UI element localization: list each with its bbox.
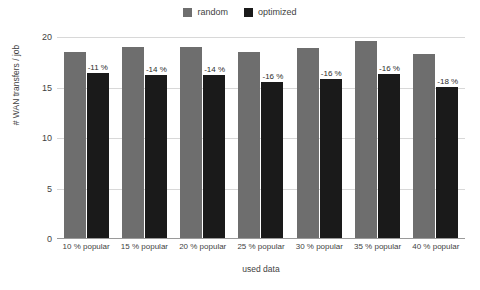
- bar-delta-label: -16 %: [321, 70, 342, 79]
- x-tick-label: 20 % popular: [174, 243, 232, 251]
- bar-chart: randomoptimized 05101520 # WAN transfers…: [0, 0, 480, 290]
- bar-optimized[interactable]: -11 %: [87, 73, 109, 239]
- legend-entry-optimized[interactable]: optimized: [244, 8, 297, 17]
- x-axis-tick-labels: 10 % popular15 % popular20 % popular25 %…: [57, 243, 465, 251]
- bar-group: -18 %: [407, 37, 465, 239]
- legend-label: random: [197, 8, 228, 17]
- bar-group: -16 %: [290, 37, 348, 239]
- legend-label: optimized: [258, 8, 297, 17]
- y-tick-label: 5: [4, 184, 52, 193]
- bar-group: -14 %: [115, 37, 173, 239]
- bar-random[interactable]: [238, 52, 260, 239]
- bar-group: -11 %: [57, 37, 115, 239]
- y-tick-label: 0: [4, 235, 52, 244]
- bar-delta-label: -18 %: [437, 78, 458, 87]
- bar-optimized[interactable]: -16 %: [320, 79, 342, 239]
- bar-random[interactable]: [122, 47, 144, 239]
- bar-delta-label: -16 %: [262, 73, 283, 82]
- bar-group: -16 %: [348, 37, 406, 239]
- x-tick-label: 30 % popular: [290, 243, 348, 251]
- bar-optimized[interactable]: -18 %: [436, 87, 458, 240]
- bar-optimized[interactable]: -16 %: [378, 74, 400, 239]
- bar-group: -14 %: [174, 37, 232, 239]
- bar-groups: -11 %-14 %-14 %-16 %-16 %-16 %-18 %: [57, 37, 465, 239]
- bar-random[interactable]: [413, 54, 435, 239]
- y-axis-title: # WAN transfers / job: [11, 15, 21, 155]
- x-tick-label: 10 % popular: [57, 243, 115, 251]
- bar-random[interactable]: [297, 48, 319, 239]
- bar-delta-label: -14 %: [204, 66, 225, 75]
- x-axis-title: used data: [57, 264, 465, 274]
- legend-swatch-random: [183, 8, 192, 17]
- legend-swatch-optimized: [244, 8, 253, 17]
- bar-group: -16 %: [232, 37, 290, 239]
- bar-random[interactable]: [180, 47, 202, 239]
- bar-optimized[interactable]: -14 %: [203, 75, 225, 239]
- x-tick-label: 35 % popular: [348, 243, 406, 251]
- plot-area: -11 %-14 %-14 %-16 %-16 %-16 %-18 %: [57, 37, 465, 239]
- bar-optimized[interactable]: -16 %: [261, 82, 283, 239]
- x-tick-label: 40 % popular: [407, 243, 465, 251]
- x-axis-line: [57, 238, 465, 239]
- x-tick-label: 15 % popular: [115, 243, 173, 251]
- legend-entry-random[interactable]: random: [183, 8, 228, 17]
- bar-random[interactable]: [355, 41, 377, 239]
- chart-legend: randomoptimized: [0, 4, 480, 20]
- bar-delta-label: -16 %: [379, 65, 400, 74]
- bar-optimized[interactable]: -14 %: [145, 75, 167, 239]
- bar-random[interactable]: [64, 52, 86, 239]
- bar-delta-label: -11 %: [88, 64, 108, 73]
- y-axis-tick-labels: 05101520: [0, 37, 52, 239]
- x-tick-label: 25 % popular: [232, 243, 290, 251]
- bar-delta-label: -14 %: [146, 66, 167, 75]
